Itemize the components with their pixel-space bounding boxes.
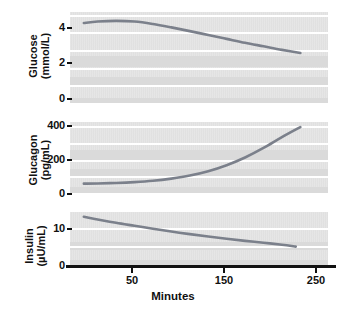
y-tick-label-insulin-10: 10 (33, 222, 65, 234)
data-curve-glucose (70, 12, 328, 104)
x-tick-label-250: 250 (296, 274, 336, 286)
plot-area-glucagon (70, 122, 328, 194)
y-tick-label-glucagon-400: 400 (28, 119, 65, 131)
plot-area-glucose (70, 12, 328, 104)
y-tick-mark-glucose-0 (67, 98, 72, 100)
x-tick-mark-250 (315, 268, 317, 273)
x-axis-line (66, 265, 336, 268)
y-tick-mark-glucagon-0 (67, 193, 72, 195)
x-tick-mark-150 (223, 268, 225, 273)
y-tick-label-glucagon-200: 200 (28, 153, 65, 165)
y-tick-label-glucose-2: 2 (40, 56, 65, 68)
x-tick-label-150: 150 (204, 274, 244, 286)
plot-area-insulin (70, 212, 328, 266)
panel-glucose: Glucose (mmol/L) 4 2 0 (0, 0, 346, 110)
x-tick-label-50: 50 (112, 274, 152, 286)
x-tick-mark-50 (131, 268, 133, 273)
data-curve-glucagon (70, 122, 328, 194)
y-tick-mark-glucagon-200 (67, 159, 72, 161)
y-tick-label-insulin-0: 0 (33, 259, 65, 271)
figure-three-panel-hormone-chart: Glucose (mmol/L) 4 2 0 Glucagon (pg/mL) … (0, 0, 346, 313)
data-curve-insulin (70, 212, 328, 266)
panel-insulin: Insulin (µU/mL) 10 0 50 150 250 Minutes (0, 208, 346, 313)
y-tick-label-glucagon-0: 0 (28, 187, 65, 199)
y-tick-mark-glucose-4 (67, 27, 72, 29)
panel-glucagon: Glucagon (pg/mL) 400 200 0 (0, 110, 346, 208)
y-axis-label-line1: Glucose (27, 34, 39, 77)
y-tick-mark-glucose-2 (67, 62, 72, 64)
x-axis-label: Minutes (0, 290, 346, 302)
y-tick-mark-insulin-10 (67, 228, 72, 230)
y-tick-label-glucose-0: 0 (40, 92, 65, 104)
y-tick-label-glucose-4: 4 (40, 21, 65, 33)
y-tick-mark-glucagon-400 (67, 125, 72, 127)
